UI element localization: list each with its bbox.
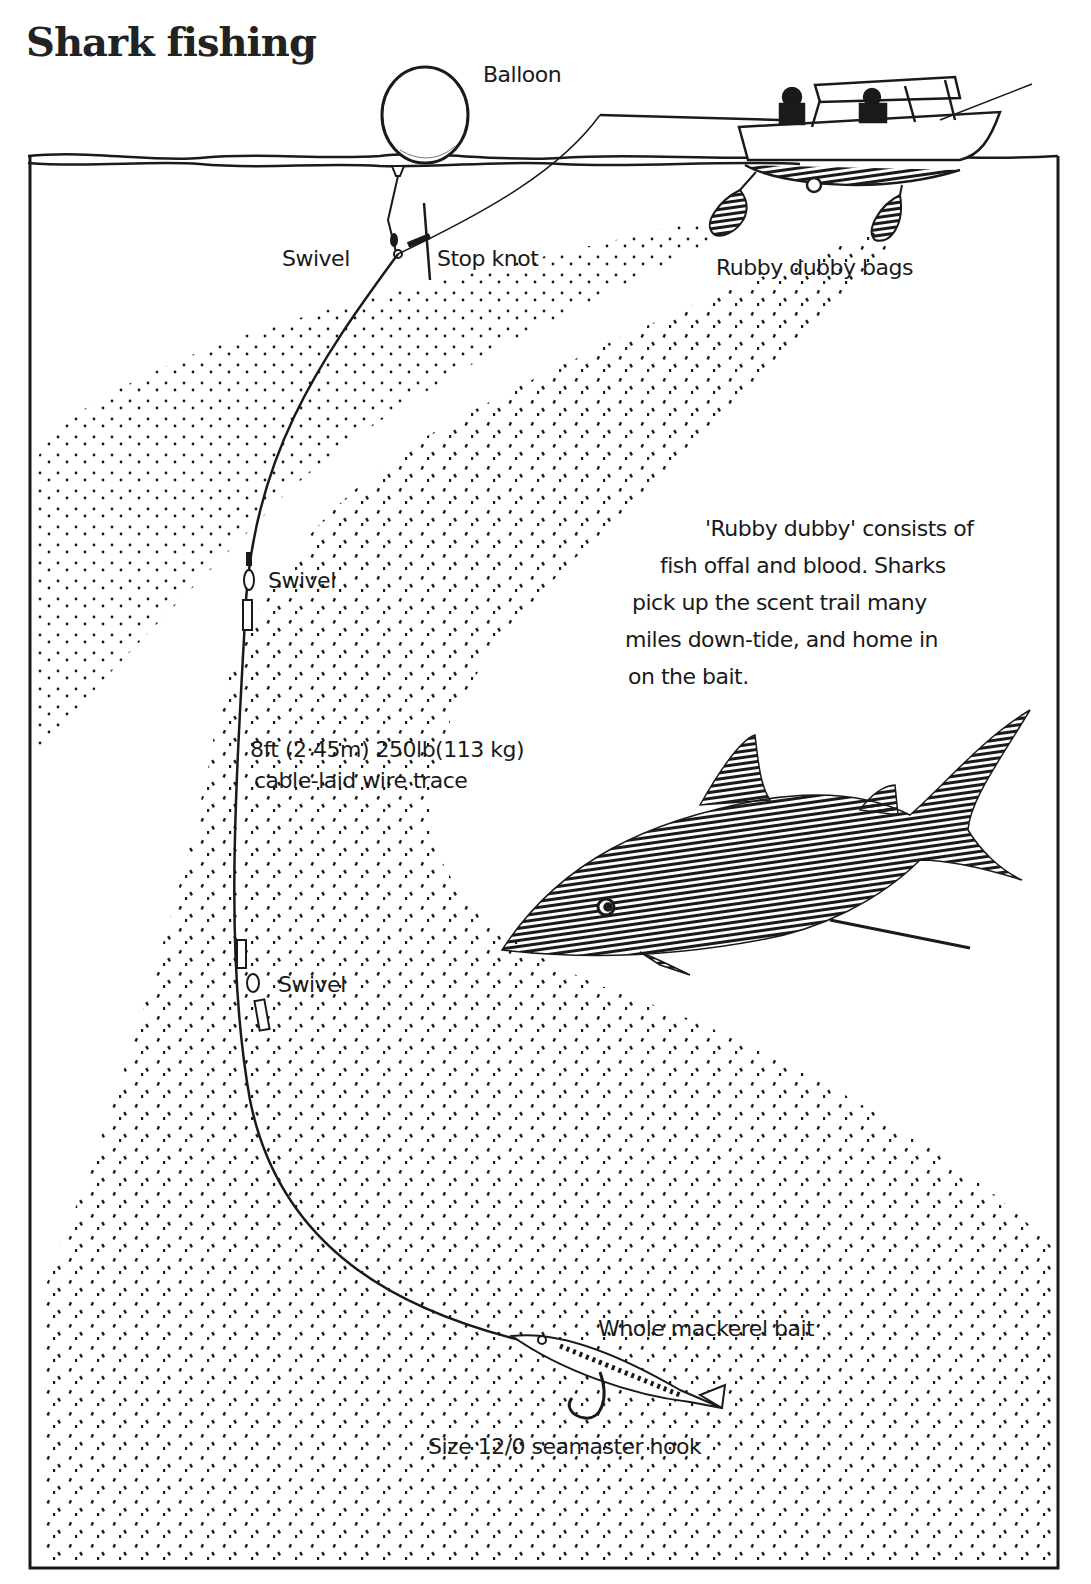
label-stop-knot: Stop knot bbox=[437, 246, 538, 271]
rubby-dubby-note: 'Rubby dubby' consists of fish offal and… bbox=[620, 510, 1050, 695]
label-swivel-low: Swivel bbox=[278, 972, 346, 997]
boat-icon bbox=[600, 77, 1032, 192]
label-hook: Size 12/0 seamaster hook bbox=[428, 1434, 701, 1459]
shark-icon bbox=[502, 710, 1030, 975]
note-line: miles down-tide, and home in bbox=[620, 621, 1050, 658]
label-bait: Whole mackerel bait bbox=[598, 1316, 814, 1341]
stop-knot-icon bbox=[408, 203, 430, 280]
mid-swivel-icon bbox=[243, 552, 254, 630]
label-trace-spec: 8ft (2·45m) 250lb(113 kg) bbox=[250, 737, 524, 762]
label-balloon: Balloon bbox=[483, 62, 561, 87]
note-line: on the bait. bbox=[620, 658, 1050, 695]
note-line: pick up the scent trail many bbox=[620, 584, 1050, 621]
label-trace-type: cable-laid wire trace bbox=[254, 768, 467, 793]
label-rubby-dubby-bags: Rubby dubby bags bbox=[716, 255, 913, 280]
note-line: 'Rubby dubby' consists of bbox=[620, 510, 1050, 547]
label-swivel-top: Swivel bbox=[282, 246, 350, 271]
illustration bbox=[0, 0, 1091, 1584]
top-swivel-icon bbox=[390, 233, 402, 258]
label-swivel-mid: Swivel bbox=[268, 568, 336, 593]
note-line: fish offal and blood. Sharks bbox=[620, 547, 1050, 584]
